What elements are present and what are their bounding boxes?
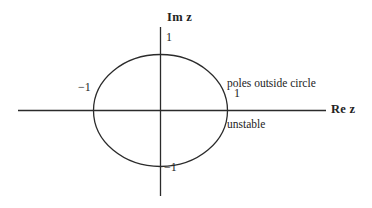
annotation-line-2: unstable — [227, 118, 316, 132]
complex-plane-figure — [0, 0, 372, 208]
imaginary-axis-label: Im z — [167, 11, 192, 25]
annotation-poles-outside-circle: poles outside circle unstable — [227, 50, 316, 145]
annotation-line-1: poles outside circle — [227, 77, 316, 91]
real-axis-label: Re z — [331, 103, 355, 117]
tick-label-bottom-negative-one: −1 — [164, 161, 177, 174]
tick-label-top-one: 1 — [166, 31, 172, 44]
tick-label-left-negative-one: −1 — [78, 81, 91, 94]
